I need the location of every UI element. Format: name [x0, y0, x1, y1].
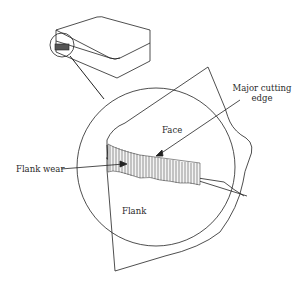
label-major-cutting-edge: Major cutting edge	[232, 83, 292, 103]
callout-connector-line	[70, 56, 104, 99]
label-major-cutting-edge-line2: edge	[232, 93, 292, 103]
label-flank-wear: Flank wear	[16, 164, 64, 174]
arrowhead-major-cutting-edge	[156, 150, 163, 156]
insert-wear-mark	[55, 44, 69, 50]
tool-wear-diagram	[0, 0, 303, 288]
insert-overview	[56, 17, 150, 78]
label-flank: Flank	[122, 206, 146, 216]
label-major-cutting-edge-line1: Major cutting	[232, 83, 292, 93]
label-face: Face	[162, 125, 182, 135]
